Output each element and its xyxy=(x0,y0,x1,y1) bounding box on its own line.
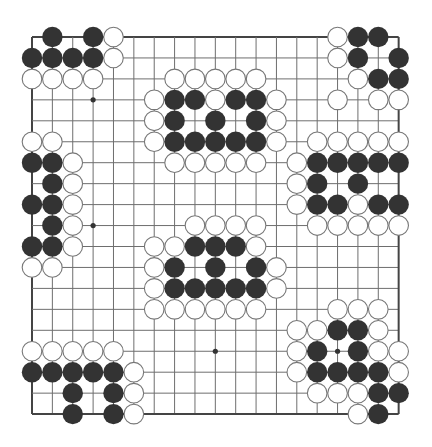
white-stone xyxy=(165,153,185,173)
white-stone xyxy=(144,132,164,152)
white-stone xyxy=(206,69,226,89)
white-stone xyxy=(348,383,368,403)
black-stone xyxy=(63,48,83,68)
black-stone xyxy=(42,173,62,193)
white-stone xyxy=(328,48,348,68)
black-stone xyxy=(348,27,368,47)
black-stone xyxy=(103,404,123,424)
white-stone xyxy=(226,153,246,173)
white-stone xyxy=(389,362,409,382)
black-stone xyxy=(42,215,62,235)
white-stone xyxy=(246,216,266,236)
black-stone xyxy=(22,362,42,382)
black-stone xyxy=(205,111,225,131)
star-point xyxy=(335,349,340,354)
white-stone xyxy=(368,341,388,361)
white-stone xyxy=(226,300,246,320)
white-stone xyxy=(389,341,409,361)
stone-group-top-center xyxy=(144,69,286,172)
black-stone xyxy=(42,48,62,68)
white-stone xyxy=(144,90,164,110)
black-stone xyxy=(185,236,205,256)
white-stone xyxy=(124,404,144,424)
white-stone xyxy=(22,132,42,152)
black-stone xyxy=(327,153,347,173)
white-stone xyxy=(328,383,348,403)
black-stone xyxy=(307,173,327,193)
white-stone xyxy=(368,216,388,236)
white-stone xyxy=(307,383,327,403)
white-stone xyxy=(185,69,205,89)
black-stone xyxy=(348,173,368,193)
black-stone xyxy=(22,48,42,68)
black-stone xyxy=(205,132,225,152)
black-stone xyxy=(185,132,205,152)
white-stone xyxy=(348,216,368,236)
white-stone xyxy=(328,132,348,152)
white-stone xyxy=(287,195,307,215)
black-stone xyxy=(368,194,388,214)
white-stone xyxy=(267,258,287,278)
star-point xyxy=(91,97,96,102)
white-stone xyxy=(328,27,348,47)
white-stone xyxy=(144,279,164,299)
black-stone xyxy=(226,132,246,152)
black-stone xyxy=(164,278,184,298)
white-stone xyxy=(206,300,226,320)
black-stone xyxy=(83,48,103,68)
black-stone xyxy=(246,111,266,131)
white-stone xyxy=(185,216,205,236)
black-stone xyxy=(185,90,205,110)
black-stone xyxy=(205,236,225,256)
black-stone xyxy=(246,90,266,110)
white-stone xyxy=(328,216,348,236)
stone-group-left-side xyxy=(22,132,83,277)
white-stone xyxy=(267,132,287,152)
black-stone xyxy=(63,404,83,424)
white-stone xyxy=(185,300,205,320)
go-board xyxy=(0,0,432,447)
white-stone xyxy=(389,216,409,236)
black-stone xyxy=(42,153,62,173)
white-stone xyxy=(368,90,388,110)
white-stone xyxy=(83,69,103,89)
black-stone xyxy=(388,383,408,403)
white-stone xyxy=(22,258,42,278)
white-stone xyxy=(368,300,388,320)
white-stone xyxy=(287,153,307,173)
black-stone xyxy=(307,194,327,214)
black-stone xyxy=(42,362,62,382)
go-board-diagram xyxy=(0,0,432,447)
white-stone xyxy=(287,341,307,361)
black-stone xyxy=(348,320,368,340)
black-stone xyxy=(164,90,184,110)
white-stone xyxy=(307,216,327,236)
black-stone xyxy=(185,278,205,298)
black-stone xyxy=(103,383,123,403)
white-stone xyxy=(206,90,226,110)
white-stone xyxy=(104,341,124,361)
white-stone xyxy=(63,216,83,236)
black-stone xyxy=(205,278,225,298)
black-stone xyxy=(368,69,388,89)
stone-group-top-right-corner xyxy=(328,27,409,110)
black-stone xyxy=(63,362,83,382)
white-stone xyxy=(83,341,103,361)
black-stone xyxy=(226,278,246,298)
black-stone xyxy=(368,362,388,382)
white-stone xyxy=(348,300,368,320)
white-stone xyxy=(226,216,246,236)
star-point xyxy=(213,349,218,354)
white-stone xyxy=(348,195,368,215)
white-stone xyxy=(287,321,307,341)
black-stone xyxy=(388,69,408,89)
white-stone xyxy=(63,195,83,215)
white-stone xyxy=(368,321,388,341)
white-stone xyxy=(144,258,164,278)
white-stone xyxy=(43,258,63,278)
black-stone xyxy=(22,194,42,214)
black-stone xyxy=(368,153,388,173)
white-stone xyxy=(43,341,63,361)
white-stone xyxy=(124,383,144,403)
white-stone xyxy=(267,279,287,299)
